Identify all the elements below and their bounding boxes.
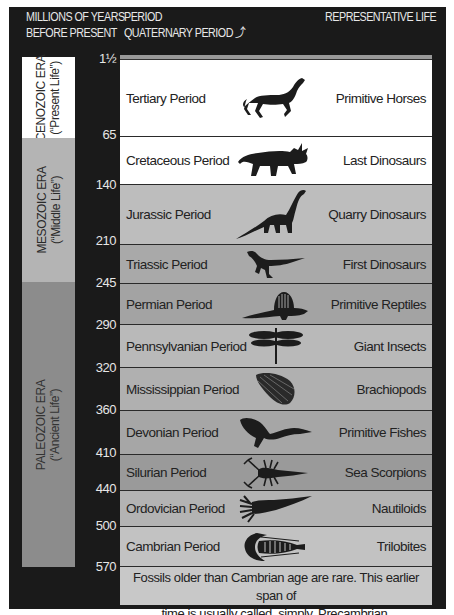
representative-life: Quarry Dinosaurs (328, 207, 426, 222)
tick-500: 500 (86, 519, 116, 533)
tick-320: 320 (86, 361, 116, 375)
row-tertiary: Tertiary Period Primitive Horses (120, 60, 432, 137)
triceratops-icon (236, 140, 316, 182)
period-name: Pennsylvanian Period (126, 339, 247, 354)
period-name: Permian Period (126, 297, 212, 312)
representative-life: Giant Insects (354, 339, 426, 354)
era-mesozoic-subtitle: (“Middle Life”) (49, 166, 63, 253)
sauropod-icon (234, 187, 318, 243)
representative-life: Brachiopods (356, 382, 426, 397)
row-cambrian: Cambrian Period Trilobites (120, 527, 432, 567)
row-cretaceous: Cretaceous Period Last Dinosaurs (120, 137, 432, 185)
representative-life: Primitive Fishes (339, 425, 426, 440)
header-representative-life: REPRESENTATIVE LIFE (325, 10, 436, 25)
period-name: Tertiary Period (126, 91, 206, 106)
nautiloid-icon (238, 494, 314, 524)
trilobite-icon (243, 531, 309, 563)
row-silurian: Silurian Period Sea Scorpions (120, 455, 432, 491)
representative-life: Trilobites (377, 539, 426, 554)
row-jurassic: Jurassic Period Quarry Dinosaurs (120, 185, 432, 245)
dimetrodon-icon (240, 286, 312, 322)
tick-65: 65 (86, 128, 116, 142)
period-name: Jurassic Period (126, 207, 211, 222)
representative-life: Sea Scorpions (345, 465, 426, 480)
era-paleozoic-name: PALEOZOIC ERA (35, 379, 49, 470)
header-quaternary-period: QUATERNARY PERIOD ⤴ (124, 26, 246, 41)
era-paleozoic-subtitle: (“Ancient Life”) (49, 379, 63, 470)
tick-360: 360 (86, 403, 116, 417)
period-name: Ordovician Period (126, 501, 225, 516)
row-devonian: Devonian Period Primitive Fishes (120, 411, 432, 455)
tick-440: 440 (86, 482, 116, 496)
tick-570: 570 (86, 560, 116, 574)
era-cenozoic-subtitle: (“Present Life”) (49, 54, 63, 141)
representative-life: Primitive Reptiles (331, 297, 426, 312)
footnote-line1: Fossils older than Cambrian age are rare… (120, 569, 432, 605)
era-mesozoic-name: MESOZOIC ERA (35, 166, 49, 253)
horse-icon (241, 73, 311, 123)
representative-life: Nautiloids (372, 501, 426, 516)
primitive-fish-icon (238, 416, 314, 450)
row-permian: Permian Period Primitive Reptiles (120, 284, 432, 325)
header-years-line2: BEFORE PRESENT (26, 26, 117, 41)
header-period: PERIOD (124, 10, 162, 25)
period-name: Cambrian Period (126, 539, 220, 554)
era-paleozoic: PALEOZOIC ERA (“Ancient Life”) (22, 282, 75, 567)
representative-life: First Dinosaurs (343, 257, 426, 272)
period-name: Mississippian Period (126, 382, 239, 397)
tick-290: 290 (86, 318, 116, 332)
dragonfly-icon (244, 326, 308, 366)
row-pennsylvanian: Pennsylvanian Period Giant Insects (120, 325, 432, 368)
tick-1-5: 1½ (86, 52, 116, 66)
precambrian-footnote: Fossils older than Cambrian age are rare… (120, 567, 432, 605)
tick-410: 410 (86, 446, 116, 460)
sea-scorpion-icon (242, 456, 310, 490)
era-cenozoic: CENOZOIC ERA (“Present Life”) (22, 57, 75, 138)
row-mississippian: Mississippian Period Brachiopods (120, 368, 432, 411)
period-name: Cretaceous Period (126, 153, 229, 168)
representative-life: Last Dinosaurs (343, 153, 426, 168)
period-name: Silurian Period (126, 465, 206, 480)
tick-210: 210 (86, 234, 116, 248)
header-years-line1: MILLIONS OF YEARS (26, 10, 125, 25)
row-ordovician: Ordovician Period Nautiloids (120, 491, 432, 527)
tick-245: 245 (86, 276, 116, 290)
row-triassic: Triassic Period First Dinosaurs (120, 245, 432, 284)
theropod-icon (245, 248, 307, 280)
representative-life: Primitive Horses (336, 91, 426, 106)
era-mesozoic: MESOZOIC ERA (“Middle Life”) (22, 138, 75, 282)
footnote-line2: time is usually called, simply, Precambr… (120, 605, 432, 615)
era-cenozoic-name: CENOZOIC ERA (35, 54, 49, 141)
brachiopod-shell-icon (254, 371, 298, 407)
tick-140: 140 (86, 178, 116, 192)
period-name: Triassic Period (126, 257, 207, 272)
period-name: Devonian Period (126, 425, 218, 440)
